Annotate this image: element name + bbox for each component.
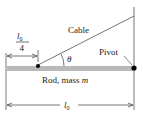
- theta-label: θ: [67, 54, 72, 64]
- full-length-label: l0: [64, 100, 70, 111]
- cable-label: Cable: [68, 25, 89, 35]
- fraction-denominator: 4: [20, 43, 25, 53]
- cable-attachment-dot: [36, 64, 40, 68]
- pivot-dot: [131, 65, 136, 70]
- pivot-leader-line: [124, 56, 132, 65]
- theta-arc: [61, 54, 64, 66]
- cable-line: [38, 16, 134, 65]
- rod-cable-diagram: l0 4 Cable Pivot θ Rod, mass m l0: [0, 0, 143, 115]
- rod-label: Rod, mass m: [42, 75, 89, 85]
- pivot-label: Pivot: [99, 47, 119, 57]
- fraction-numerator: l0: [17, 31, 23, 42]
- rod: [6, 66, 134, 71]
